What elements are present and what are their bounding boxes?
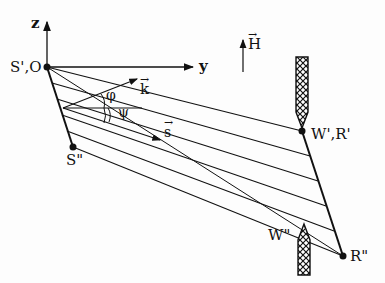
tower-w-prime (296, 57, 308, 128)
diagram-canvas: z y S',O →k →s →H φ ψ S" W',R' W" R" (0, 0, 385, 283)
s-double-prime-label: S" (66, 153, 83, 168)
s-double-prime-point (70, 144, 77, 151)
origin-point (44, 64, 51, 71)
tower-w-double-prime (298, 224, 310, 275)
k-vector-label: →k (140, 82, 149, 97)
left-edge (47, 67, 73, 147)
psi-label: ψ (118, 105, 129, 119)
phi-label: φ (106, 88, 116, 102)
phi-arc (101, 94, 105, 108)
y-axis-label: y (199, 59, 208, 74)
origin-label: S',O (10, 60, 41, 75)
h-field-label: →H (248, 37, 261, 52)
z-axis-label: z (31, 16, 40, 31)
w-r-prime-label: W',R' (311, 127, 351, 142)
w-double-prime-label: W" (268, 228, 290, 243)
r-double-prime-label: R" (350, 249, 368, 264)
r-double-prime-point (340, 253, 347, 260)
s-vector-label: →s (164, 125, 171, 139)
